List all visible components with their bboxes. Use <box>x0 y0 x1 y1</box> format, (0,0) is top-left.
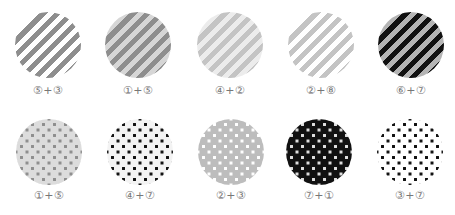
swatch-label: ④+⑦ <box>95 189 185 202</box>
stripe-circle <box>197 12 263 78</box>
swatch-stripe-3: ④+② <box>185 12 275 97</box>
swatch-dot-4: ⑦+① <box>274 119 364 202</box>
swatch-label: ⑦+① <box>274 189 364 202</box>
stripe-circle <box>378 12 444 78</box>
stripe-circle <box>105 12 171 78</box>
swatch-label: ④+② <box>185 84 275 97</box>
swatch-label: ①+⑤ <box>93 84 183 97</box>
swatch-dot-3: ②+③ <box>186 119 276 202</box>
dot-circle <box>198 119 264 185</box>
swatch-label: ②+③ <box>186 189 276 202</box>
swatch-stripe-2: ①+⑤ <box>93 12 183 97</box>
swatch-label: ③+⑦ <box>365 189 455 202</box>
swatch-label: ①+⑤ <box>4 189 94 202</box>
swatch-stripe-1: ⑤+③ <box>3 12 93 97</box>
swatch-dot-5: ③+⑦ <box>365 119 455 202</box>
dot-circle <box>107 119 173 185</box>
stripe-circle <box>288 12 354 78</box>
dot-circle <box>16 119 82 185</box>
dot-circle <box>286 119 352 185</box>
swatch-label: ⑥+⑦ <box>366 84 455 97</box>
swatch-stripe-4: ②+⑧ <box>276 12 366 97</box>
swatch-dot-2: ④+⑦ <box>95 119 185 202</box>
swatch-label: ⑤+③ <box>3 84 93 97</box>
dot-circle <box>377 119 443 185</box>
stripe-circle <box>15 12 81 78</box>
swatch-stripe-5: ⑥+⑦ <box>366 12 455 97</box>
swatch-dot-1: ①+⑤ <box>4 119 94 202</box>
swatch-label: ②+⑧ <box>276 84 366 97</box>
